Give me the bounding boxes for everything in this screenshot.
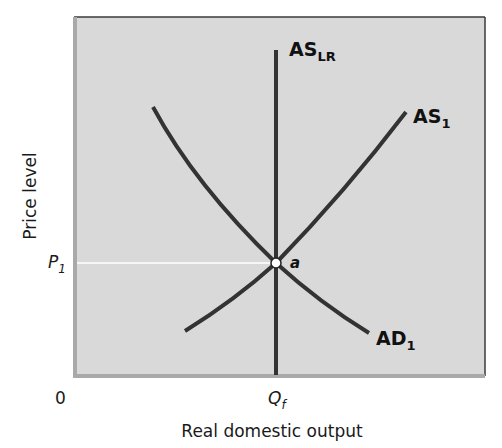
plot-area [74,17,485,376]
ad1-label-main: AD [376,327,406,349]
p1-tick-sub: 1 [58,262,66,276]
qf-tick-sub: f [281,398,287,412]
x-axis-label: Real domestic output [181,421,363,441]
y-axis-label: Price level [20,152,40,239]
equilibrium-point [271,258,281,268]
qf-tick-label: Qf [268,388,287,412]
qf-tick-main: Q [268,388,281,408]
origin-label: 0 [55,388,66,408]
aslr-label-sub: LR [317,49,335,64]
equilibrium-point-label: a [290,254,300,272]
as1-label-sub: 1 [441,116,450,131]
ad1-label-sub: 1 [406,338,415,353]
aslr-label-main: AS [289,38,317,60]
ad-as-diagram: a ASLR AS1 AD1 Price level P1 0 Qf Real … [0,0,502,448]
p1-tick-label: P1 [48,252,66,276]
as1-label-main: AS [413,105,441,127]
